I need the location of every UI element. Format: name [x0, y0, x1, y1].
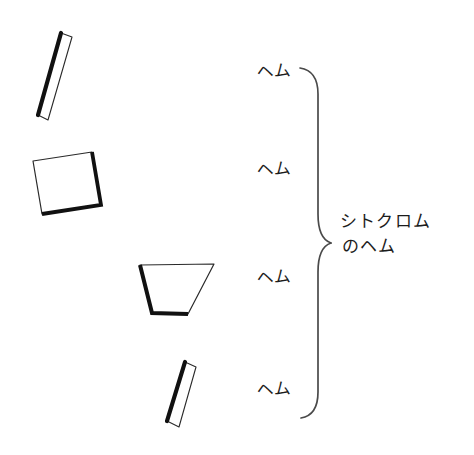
heme-plate-1 [38, 33, 72, 120]
heme-label-2: ヘム [256, 160, 292, 180]
group-label-line-1: シトクロム [340, 209, 431, 234]
figure-canvas: ヘム ヘム ヘム ヘム シトクロム のヘム [0, 0, 474, 455]
heme-label-1: ヘム [256, 62, 292, 82]
brace-lower-half [301, 243, 331, 418]
heme-plate-2 [33, 152, 101, 214]
group-label-line-2: のヘム [340, 234, 431, 259]
heme-plate-1-body [38, 33, 72, 120]
curly-brace-right [300, 68, 331, 418]
heme-label-3: ヘム [256, 268, 292, 288]
heme-plate-3 [140, 264, 214, 314]
group-label-cytochrome-heme: シトクロム のヘム [340, 209, 431, 258]
heme-label-4: ヘム [256, 380, 292, 400]
brace-upper-half [300, 68, 331, 243]
heme-plate-4 [167, 362, 196, 427]
